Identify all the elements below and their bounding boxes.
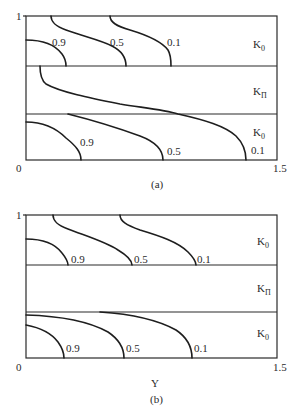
panel-b-xmin-label: 0 — [16, 361, 22, 373]
panel-b-zone-bottom-label: K0 — [257, 327, 269, 342]
panel-a-top-label-0.1: 0.1 — [167, 36, 181, 48]
panel-a-zone-top-label: K0 — [253, 38, 265, 53]
panel-a-ytick-label: 1 — [16, 10, 22, 22]
panel-a-caption: (a) — [151, 178, 164, 191]
panel-b-bottom-curve-0.9 — [26, 325, 64, 358]
panel-b-frame — [26, 215, 277, 358]
panel-b-xaxis-label: Y — [151, 377, 159, 389]
panel-b-bottom-label-0.1: 0.1 — [194, 342, 208, 354]
figure-canvas: 0.9 0.5 0.1 0.9 0.5 0.1 K0 KΠ K0 1 0 1.5… — [0, 0, 296, 417]
panel-a-zone-middle-label: KΠ — [253, 85, 267, 100]
panel-a-top-label-0.9: 0.9 — [52, 36, 66, 48]
panel-a-middle-curve — [40, 66, 246, 160]
panel-b-ytick-label: 1 — [16, 209, 22, 221]
panel-a-bottom-label-0.5: 0.5 — [167, 145, 181, 157]
panel-b-zone-top-label: K0 — [257, 235, 269, 250]
panel-b-top-label-0.5: 0.5 — [134, 253, 148, 265]
panel-a-bottom-label-0.1: 0.1 — [251, 144, 265, 156]
panel-b-caption: (b) — [150, 393, 163, 406]
panel-b-top-label-0.1: 0.1 — [197, 253, 211, 265]
panel-b-bottom-label-0.9: 0.9 — [66, 342, 80, 354]
panel-b-bottom-label-0.5: 0.5 — [126, 342, 140, 354]
panel-a-xmin-label: 0 — [16, 162, 22, 174]
panel-a-xmax-label: 1.5 — [273, 162, 287, 174]
panel-b-top-curve-0.1 — [120, 215, 196, 265]
panel-a: 0.9 0.5 0.1 0.9 0.5 0.1 K0 KΠ K0 1 0 1.5… — [16, 10, 287, 191]
panel-b-bottom-curve-0.1 — [100, 312, 192, 358]
panel-a-bottom-label-0.9: 0.9 — [80, 136, 94, 148]
panel-b-zone-middle-label: KΠ — [257, 282, 271, 297]
panel-a-bottom-curve-0.9 — [26, 122, 81, 160]
panel-b: 0.9 0.5 0.1 0.9 0.5 0.1 K0 KΠ K0 1 0 1.5… — [16, 209, 287, 406]
panel-b-xmax-label: 1.5 — [273, 361, 287, 373]
panel-b-top-curve-0.9 — [26, 239, 68, 265]
panel-a-zone-bottom-label: K0 — [253, 126, 265, 141]
panel-b-top-label-0.9: 0.9 — [71, 253, 85, 265]
panel-a-top-label-0.5: 0.5 — [110, 36, 124, 48]
